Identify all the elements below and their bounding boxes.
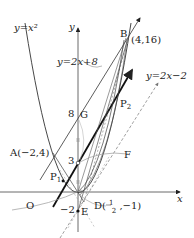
- tick-minus-2: −2: [60, 204, 75, 215]
- label-P1: P1: [50, 171, 61, 184]
- label-x-axis: x: [177, 193, 183, 204]
- label-B: B: [120, 28, 127, 39]
- label-D: D( 1 2 ,−1): [94, 196, 141, 215]
- label-line-2x-minus-2: y=2x−2: [145, 70, 187, 81]
- label-line-2x-plus-8: y=2x+8: [56, 56, 98, 67]
- math-diagram: y=x² y y=2x+8 B (4,16) y=2x−2 8 G P2 A(−…: [0, 0, 194, 238]
- point-P1: [62, 180, 65, 183]
- tick-3: 3: [68, 155, 74, 166]
- label-parabola: y=x²: [13, 22, 38, 33]
- point-3: [76, 161, 80, 165]
- label-F: F: [124, 149, 131, 160]
- label-y-axis: y: [68, 21, 75, 32]
- label-A: A(−2,4): [9, 147, 49, 158]
- point-E: [76, 209, 79, 212]
- label-B-coord: (4,16): [131, 34, 161, 45]
- label-G: G: [80, 109, 88, 120]
- label-E: E: [81, 206, 88, 217]
- label-P2: P2: [120, 98, 131, 111]
- guide-dashed-1: [60, 170, 95, 228]
- tick-8: 8: [68, 108, 74, 119]
- label-O: O: [26, 200, 34, 211]
